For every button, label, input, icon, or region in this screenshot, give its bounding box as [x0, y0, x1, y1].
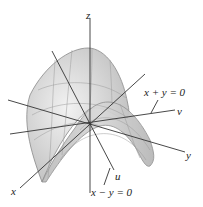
x-minus-y-label: x − y = 0	[91, 187, 132, 198]
x-plus-y-leader	[151, 100, 158, 113]
saddle-surface-plot	[0, 0, 203, 207]
v-axis-label: v	[177, 106, 182, 117]
z-axis-label: z	[86, 10, 90, 21]
x-plus-y-label: x + y = 0	[144, 87, 185, 98]
u-axis-label: u	[115, 171, 121, 182]
x-axis-label: x	[11, 186, 16, 197]
x-minus-y-leader	[104, 168, 110, 185]
y-axis-label: y	[186, 150, 191, 161]
saddle-diagram: z x y v u x + y = 0 x − y = 0	[0, 0, 203, 207]
